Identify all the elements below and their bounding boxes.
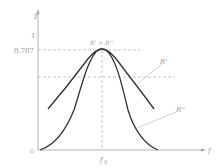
tick-0707: 0.707: [14, 47, 34, 55]
peak-label: R' > R'': [89, 39, 113, 46]
x-axis-label: f: [207, 147, 212, 155]
curve-r-prime: [48, 49, 154, 109]
x-axis-arrow-icon: [201, 149, 206, 152]
f0-subscript: 0: [104, 159, 107, 165]
origin-label: 0: [30, 147, 34, 154]
r2-label: R'': [175, 106, 185, 114]
tick-1: 1: [31, 32, 35, 40]
r1-label: R': [159, 58, 167, 66]
leader-r1: [137, 64, 162, 84]
resonance-chart: I 1 0.707 0 f 0 f R' > R'' R' R'': [0, 0, 221, 167]
curve-r-double-prime: [40, 49, 158, 150]
leader-r2: [137, 112, 176, 128]
